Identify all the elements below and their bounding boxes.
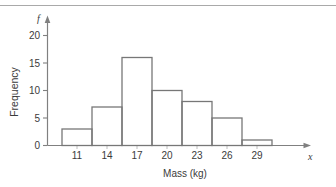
bar-11 <box>62 129 92 146</box>
x-tick-label-14: 14 <box>101 150 113 161</box>
y-axis-variable-label: f <box>37 13 41 24</box>
x-tick-label-23: 23 <box>191 150 203 161</box>
x-tick-label-20: 20 <box>161 150 173 161</box>
histogram-bars <box>62 58 272 146</box>
x-tick-label-29: 29 <box>251 150 263 161</box>
x-axis-tick-labels: 11 14 17 20 23 26 29 <box>72 150 263 161</box>
bar-14 <box>92 107 122 146</box>
y-axis-ticks <box>43 36 48 146</box>
x-tick-label-26: 26 <box>221 150 233 161</box>
histogram-figure: 0 5 10 15 20 f Frequency <box>0 0 336 187</box>
bar-17 <box>122 58 152 146</box>
y-axis-tick-labels: 0 5 10 15 20 <box>29 30 41 151</box>
y-axis-arrow-icon <box>45 16 51 24</box>
x-axis-arrow-icon <box>304 143 312 149</box>
y-axis-title: Frequency <box>8 66 20 116</box>
x-axis-title: Mass (kg) <box>163 168 207 179</box>
bar-29 <box>242 140 272 146</box>
x-axis-variable-label: x <box>307 151 313 162</box>
histogram-svg: 0 5 10 15 20 f Frequency <box>0 0 336 187</box>
y-tick-label-0: 0 <box>34 140 40 151</box>
bar-23 <box>182 102 212 146</box>
chart-plot-area: 0 5 10 15 20 f Frequency <box>0 0 336 187</box>
y-tick-label-10: 10 <box>29 85 41 96</box>
x-tick-label-17: 17 <box>131 150 143 161</box>
bar-20 <box>152 91 182 146</box>
y-tick-label-20: 20 <box>29 30 41 41</box>
y-tick-label-5: 5 <box>34 113 40 124</box>
y-tick-label-15: 15 <box>29 58 41 69</box>
bar-26 <box>212 118 242 146</box>
x-tick-label-11: 11 <box>72 150 83 161</box>
